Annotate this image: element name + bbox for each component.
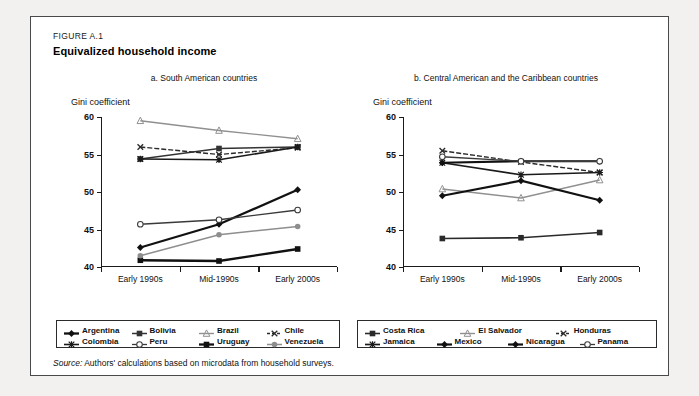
legend-marker-icon [507, 339, 524, 350]
legend-swatch [198, 336, 215, 347]
legend-swatch [436, 336, 453, 347]
y-axis-tick-label: 55 [84, 150, 94, 160]
x-axis-tick [482, 267, 483, 272]
legend-item-mexico[interactable]: Mexico [436, 336, 508, 347]
series-marker [596, 169, 603, 176]
legend-label: Costa Rica [381, 326, 424, 335]
x-axis-tick [258, 267, 259, 272]
series-marker [138, 221, 144, 227]
x-axis-tick [101, 267, 102, 272]
legend-swatch [364, 336, 381, 347]
figure-card: FIGURE A.1 Equivalized household income … [30, 16, 669, 376]
series-marker [518, 171, 525, 178]
legend-label: Mexico [453, 337, 482, 346]
source-prefix: Source: [53, 358, 82, 368]
series-marker [518, 235, 524, 241]
legend-swatch [459, 325, 476, 336]
legend-label: Bolivia [148, 326, 176, 335]
legend-label: Colombia [80, 337, 118, 346]
x-axis-tick-label: Early 1990s [420, 274, 465, 284]
legend-swatch [63, 336, 80, 347]
legend-item-argentina[interactable]: Argentina [63, 325, 131, 336]
y-axis-tick [97, 155, 101, 156]
series-marker [137, 244, 144, 251]
legend-swatch [266, 336, 283, 347]
legend-item-jamaica[interactable]: Jamaica [364, 336, 436, 347]
series-marker [216, 232, 222, 238]
series-marker [294, 186, 301, 193]
legend-label: Panama [596, 337, 629, 346]
x-axis-tick [560, 267, 561, 272]
panel-title-a: a. South American countries [49, 73, 359, 83]
y-axis-tick [97, 117, 101, 118]
legend-marker-icon [266, 339, 283, 350]
legend-item-nicaragua[interactable]: Nicaragua [507, 336, 579, 347]
series-marker [596, 197, 603, 204]
legend-item-honduras[interactable]: Honduras [555, 325, 650, 336]
legend-swatch [507, 336, 524, 347]
legend-item-brazil[interactable]: Brazil [198, 325, 266, 336]
legend-label: Peru [148, 337, 168, 346]
legend-item-peru[interactable]: Peru [131, 336, 199, 347]
legend-swatch [198, 325, 215, 336]
legend-swatch [364, 325, 381, 336]
series-marker [216, 217, 222, 223]
legend-marker-icon [364, 339, 381, 350]
series-marker [518, 158, 524, 164]
legend-swatch [131, 336, 148, 347]
x-axis-tick [639, 267, 640, 272]
plot-area-b: 4045505560Early 1990sMid-1990sEarly 2000… [403, 117, 639, 267]
series-marker [216, 258, 222, 264]
x-axis-tick-label: Early 1990s [118, 274, 163, 284]
legend-swatch [266, 325, 283, 336]
legend-row: ArgentinaBoliviaBrazilChile [63, 325, 333, 336]
legend-item-colombia[interactable]: Colombia [63, 336, 131, 347]
plot-area-a: 4045505560Early 1990sMid-1990sEarly 2000… [101, 117, 337, 267]
series-marker [597, 230, 603, 236]
legend-item-bolivia[interactable]: Bolivia [131, 325, 199, 336]
series-marker [295, 207, 301, 213]
chart-panel-south-america: a. South American countries Gini coeffic… [49, 73, 359, 313]
series-line [140, 121, 297, 139]
series-marker [518, 177, 525, 184]
y-axis-tick [399, 117, 403, 118]
series-marker [294, 144, 301, 151]
x-axis-tick [403, 267, 404, 272]
legend-label: Honduras [572, 326, 611, 335]
legend-row: ColombiaPeruUruguayVenezuela [63, 336, 333, 347]
legend-marker-icon [436, 339, 453, 350]
legend-south-america: ArgentinaBoliviaBrazilChileColombiaPeruU… [56, 320, 340, 348]
series-marker [440, 154, 446, 160]
legend-swatch [131, 325, 148, 336]
legend-item-chile[interactable]: Chile [266, 325, 334, 336]
series-marker [295, 246, 301, 252]
legend-swatch [555, 325, 572, 336]
legend-item-uruguay[interactable]: Uruguay [198, 336, 266, 347]
series-marker [597, 158, 603, 164]
y-axis-title-b: Gini coefficient [373, 97, 432, 107]
y-axis-tick-label: 50 [84, 187, 94, 197]
legend-label: El Salvador [476, 326, 522, 335]
x-axis-tick [180, 267, 181, 272]
legend-item-el-salvador[interactable]: El Salvador [459, 325, 554, 336]
legend-label: Brazil [215, 326, 239, 335]
legend-item-panama[interactable]: Panama [579, 336, 651, 347]
series-marker [440, 236, 446, 242]
y-axis-tick-label: 60 [386, 112, 396, 122]
legend-label: Jamaica [381, 337, 415, 346]
legend-label: Venezuela [283, 337, 324, 346]
legend-swatch [579, 336, 596, 347]
legend-item-costa-rica[interactable]: Costa Rica [364, 325, 459, 336]
series-marker [137, 156, 144, 163]
legend-row: Costa RicaEl SalvadorHonduras [364, 325, 650, 336]
x-axis-tick-label: Mid-1990s [199, 274, 239, 284]
y-axis-tick-label: 45 [84, 225, 94, 235]
legend-item-venezuela[interactable]: Venezuela [266, 336, 334, 347]
legend-label: Argentina [80, 326, 119, 335]
x-axis-tick [337, 267, 338, 272]
y-axis-tick-label: 45 [386, 225, 396, 235]
y-axis-title-a: Gini coefficient [71, 97, 130, 107]
y-axis-tick [97, 230, 101, 231]
x-axis-tick-label: Mid-1990s [501, 274, 541, 284]
legend-marker-icon [63, 339, 80, 350]
